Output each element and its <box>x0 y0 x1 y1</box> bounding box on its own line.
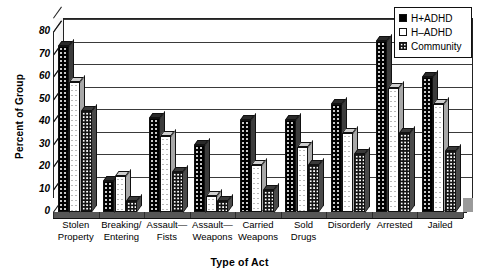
x-axis-tick-labels: StolenPropertyBreaking/EnteringAssault—F… <box>53 219 473 259</box>
x-axis-separator <box>417 212 418 218</box>
bar-h-adhd-4 <box>194 145 205 213</box>
bar-face <box>240 120 251 212</box>
bar-h-adhd-9 <box>422 77 433 212</box>
x-axis-separator <box>235 212 236 218</box>
bar-face <box>172 172 183 213</box>
x-tick-label: Jailed <box>413 219 467 231</box>
bar-community-8 <box>399 133 410 212</box>
bar-h-adhd-4 <box>206 196 217 212</box>
legend-item-3[interactable]: Community <box>399 39 467 53</box>
x-axis-separator <box>53 212 54 218</box>
bar-h-adhd-6 <box>297 147 308 212</box>
bar-group <box>58 32 93 212</box>
bar-group <box>149 32 184 212</box>
bar-h-adhd-5 <box>240 120 251 212</box>
bar-group <box>240 32 275 212</box>
bar-face <box>251 165 262 212</box>
bar-face <box>399 133 410 212</box>
bar-h-adhd-2 <box>103 181 114 213</box>
x-axis-separator <box>372 212 373 218</box>
bar-face <box>297 147 308 212</box>
x-axis-separator <box>281 212 282 218</box>
bar-group <box>285 32 320 212</box>
legend-label: Community <box>411 41 462 52</box>
legend: H+ADHDH–ADHDCommunity <box>394 7 472 58</box>
x-tick-label-line: Drugs <box>277 231 331 243</box>
bar-group <box>194 32 229 212</box>
bar-face <box>126 201 137 212</box>
bar-h-adhd-1 <box>69 82 80 213</box>
x-axis-separator <box>190 212 191 218</box>
bar-side <box>92 104 97 212</box>
bar-face <box>160 136 171 213</box>
bar-group <box>376 32 411 212</box>
bar-community-4 <box>217 201 228 212</box>
x-axis-title: Type of Act <box>0 256 479 268</box>
bar-face <box>81 111 92 212</box>
bar-community-9 <box>445 151 456 212</box>
bar-community-5 <box>263 190 274 213</box>
bar-face <box>206 196 217 212</box>
bar-h-adhd-3 <box>160 136 171 213</box>
bar-face <box>388 88 399 212</box>
bar-h-adhd-2 <box>115 176 126 212</box>
y-tick-label: 40 <box>0 115 50 126</box>
bar-face <box>354 154 365 213</box>
bar-h-adhd-1 <box>58 46 69 213</box>
bar-face <box>422 77 433 212</box>
plot-area <box>53 32 463 212</box>
bar-community-3 <box>172 172 183 213</box>
y-tick-label: 0 <box>0 205 50 216</box>
bar-face <box>194 145 205 213</box>
legend-label: H+ADHD <box>411 13 452 24</box>
bar-side <box>410 126 415 212</box>
bar-face <box>376 41 387 212</box>
bar-face <box>115 176 126 212</box>
bar-group <box>103 32 138 212</box>
bar-h-adhd-5 <box>251 165 262 212</box>
plot-floor-right-edge <box>463 198 473 212</box>
bar-side <box>183 165 188 212</box>
bar-h-adhd-7 <box>342 133 353 212</box>
bar-h-adhd-6 <box>285 120 296 212</box>
y-tick-label: 80 <box>0 25 50 36</box>
bar-h-adhd-3 <box>149 118 160 213</box>
legend-item-1[interactable]: H+ADHD <box>399 11 467 25</box>
bar-h-adhd-9 <box>433 104 444 212</box>
bar-face <box>263 190 274 213</box>
bar-face <box>308 165 319 212</box>
bar-community-1 <box>81 111 92 212</box>
legend-swatch-icon <box>399 28 407 36</box>
x-axis-separator <box>463 212 464 218</box>
x-axis-separator <box>326 212 327 218</box>
bar-face <box>445 151 456 212</box>
y-tick-label: 20 <box>0 160 50 171</box>
x-axis-separator <box>99 212 100 218</box>
bar-face <box>149 118 160 213</box>
bar-community-6 <box>308 165 319 212</box>
bar-face <box>342 133 353 212</box>
bar-face <box>58 46 69 213</box>
y-tick-label: 10 <box>0 183 50 194</box>
bar-side <box>456 144 461 212</box>
bar-side <box>365 147 370 212</box>
bar-group <box>422 32 457 212</box>
grouped-bar-chart: Percent of Group 01020304050607080 Stole… <box>0 0 479 275</box>
bar-h-adhd-7 <box>331 104 342 212</box>
bar-face <box>285 120 296 212</box>
legend-label: H–ADHD <box>411 27 452 38</box>
legend-swatch-icon <box>399 14 407 22</box>
bar-h-adhd-8 <box>376 41 387 212</box>
legend-item-2[interactable]: H–ADHD <box>399 25 467 39</box>
y-tick-label: 60 <box>0 70 50 81</box>
y-tick-label: 30 <box>0 138 50 149</box>
x-axis-separator <box>144 212 145 218</box>
bar-h-adhd-8 <box>388 88 399 212</box>
plot-floor-slab <box>53 212 463 219</box>
legend-swatch-icon <box>399 42 407 50</box>
bar-face <box>433 104 444 212</box>
bar-face <box>331 104 342 212</box>
bar-group <box>331 32 366 212</box>
bar-community-7 <box>354 154 365 213</box>
bar-face <box>69 82 80 213</box>
